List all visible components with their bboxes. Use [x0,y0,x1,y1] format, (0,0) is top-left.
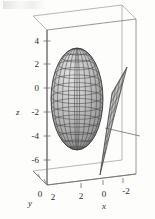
x-tick-label: 0 [102,189,107,199]
y-tick-label: 0 [38,189,43,199]
figure-3d-plot: 4 2 0 -2 -4 -6 z 0 2 y 2 0 -2 [0,0,155,219]
tangent-plane-surface [99,66,127,176]
z-tick-label: 0 [35,83,40,93]
z-tick-label: 2 [35,59,40,69]
z-axis-tick-labels: 4 2 0 -2 -4 -6 [32,36,40,165]
x-axis-label: x [101,201,106,211]
z-axis-label: z [15,107,20,117]
z-axis [44,30,51,185]
ellipsoid-surface [51,48,103,152]
y-axis-tick-labels: 0 2 [38,189,56,202]
y-axis-label: y [27,198,32,208]
plot-canvas: 4 2 0 -2 -4 -6 z 0 2 y 2 0 -2 [0,0,155,219]
x-axis-tick-labels: 2 0 -2 [79,186,130,201]
z-tick-label: -4 [32,131,40,141]
y-tick-label: 2 [51,192,56,202]
y-axis [33,171,47,185]
x-tick-label: 2 [79,191,84,201]
z-tick-label: 4 [35,36,40,46]
x-tick-label: -2 [122,186,130,196]
z-tick-label: -6 [32,155,40,165]
z-tick-label: -2 [32,107,40,117]
